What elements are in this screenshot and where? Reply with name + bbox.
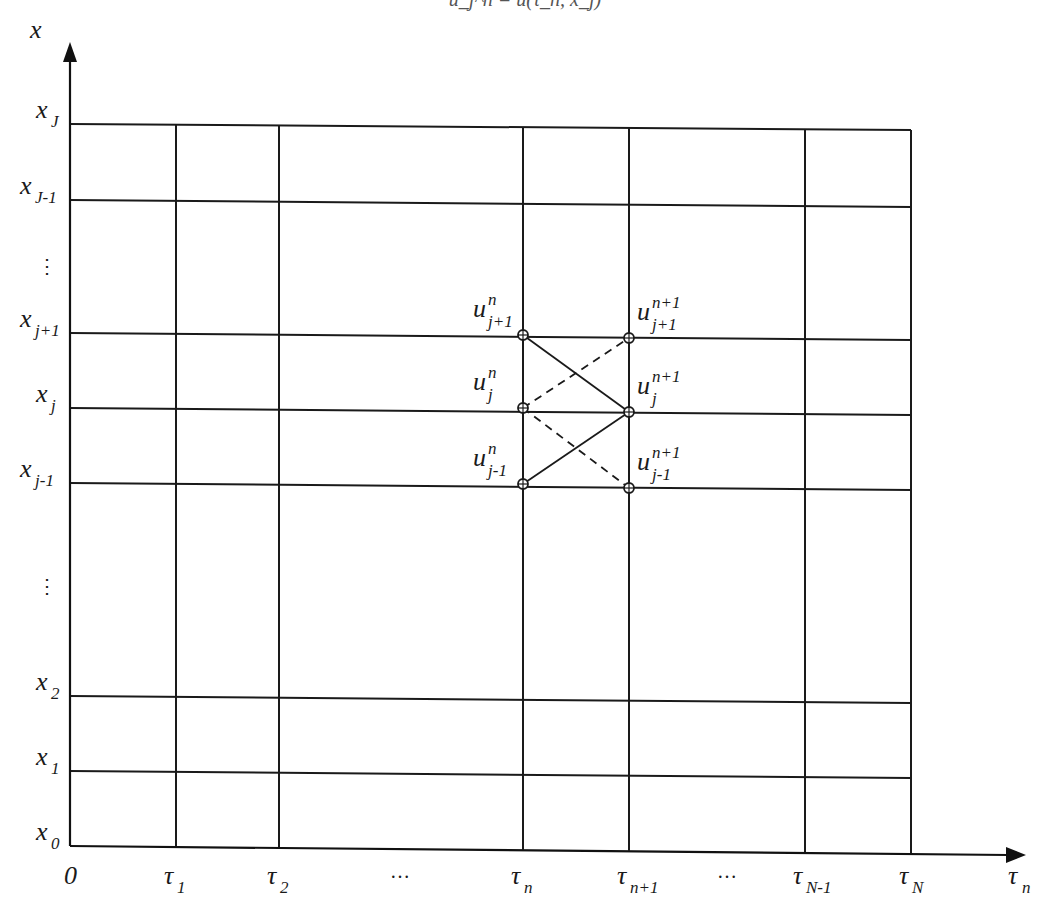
svg-text:n: n bbox=[488, 363, 497, 382]
svg-text:1: 1 bbox=[51, 759, 60, 778]
svg-text:τ: τ bbox=[511, 861, 522, 890]
svg-text:τ: τ bbox=[164, 861, 175, 890]
svg-text:J: J bbox=[51, 112, 60, 131]
y-tick-0: x0 bbox=[35, 817, 60, 853]
stencil-nodes: unj+1unjunj-1un+1j+1un+1jun+1j-1 bbox=[473, 290, 680, 493]
svg-text:…: … bbox=[717, 860, 737, 882]
svg-text:2: 2 bbox=[51, 684, 60, 703]
grid-row-x-j+1 bbox=[70, 333, 911, 340]
stencil-node-u-n+1-j+1: un+1j+1 bbox=[624, 293, 680, 343]
stencil-edge-dashed bbox=[523, 338, 629, 408]
svg-text:n+1: n+1 bbox=[652, 367, 680, 386]
stencil-node-u-n-j-1: unj-1 bbox=[473, 439, 528, 489]
svg-text:n+1: n+1 bbox=[652, 443, 680, 462]
svg-text:2: 2 bbox=[280, 878, 289, 897]
svg-text:j-1: j-1 bbox=[33, 471, 54, 490]
y-tick-1: x1 bbox=[35, 742, 60, 778]
x-tick-n: τn bbox=[511, 861, 533, 897]
origin-label: 0 bbox=[64, 861, 77, 890]
svg-text:j: j bbox=[650, 389, 657, 408]
y-axis-arrow-icon bbox=[63, 42, 77, 62]
svg-text:j-1: j-1 bbox=[486, 461, 507, 480]
grid-row-x-1 bbox=[70, 771, 911, 778]
stencil-node-u-n-j: unj bbox=[473, 363, 528, 413]
y-tick-ellipsis: ⋮ bbox=[37, 575, 57, 597]
svg-text:0: 0 bbox=[51, 834, 60, 853]
svg-text:τ: τ bbox=[267, 861, 278, 890]
y-tick-ellipsis: ⋮ bbox=[37, 255, 57, 277]
svg-text:n+1: n+1 bbox=[652, 293, 680, 312]
y-tick-J: xJ bbox=[35, 95, 60, 131]
grid-lines bbox=[70, 124, 911, 853]
x-tick-ellipsis: … bbox=[390, 860, 410, 882]
svg-text:1: 1 bbox=[177, 878, 186, 897]
svg-text:u: u bbox=[473, 294, 486, 323]
svg-text:u: u bbox=[473, 443, 486, 472]
svg-text:j-1: j-1 bbox=[650, 465, 671, 484]
x-axis-label: τ n bbox=[1008, 861, 1031, 897]
grid-row-x-J-1 bbox=[70, 200, 911, 207]
svg-text:x: x bbox=[19, 171, 32, 200]
x-tick-2: τ2 bbox=[267, 861, 289, 897]
grid-row-x-2 bbox=[70, 696, 911, 703]
grid-row-x-j-1 bbox=[70, 483, 911, 490]
svg-text:x: x bbox=[35, 667, 48, 696]
stencil-edge-solid bbox=[523, 412, 629, 484]
x-tick-n+1: τn+1 bbox=[617, 861, 658, 897]
svg-text:N: N bbox=[911, 878, 925, 897]
y-tick-j-1: xj-1 bbox=[19, 454, 54, 490]
grid-row-x-J bbox=[70, 124, 911, 130]
svg-text:x: x bbox=[35, 95, 48, 124]
y-tick-j: xj bbox=[35, 379, 56, 415]
svg-text:τ: τ bbox=[617, 861, 628, 890]
svg-text:τ: τ bbox=[1008, 861, 1019, 890]
y-tick-2: x2 bbox=[35, 667, 60, 703]
x-tick-labels: τ1τ2…τnτn+1…τN-1τN bbox=[164, 860, 925, 897]
svg-text:n: n bbox=[1022, 878, 1031, 897]
x-axis-line bbox=[70, 846, 1008, 855]
svg-text:n+1: n+1 bbox=[630, 878, 658, 897]
stencil-node-u-n-j+1: unj+1 bbox=[473, 290, 528, 340]
svg-text:x: x bbox=[35, 379, 48, 408]
svg-text:x: x bbox=[19, 454, 32, 483]
svg-text:u: u bbox=[637, 447, 650, 476]
svg-text:x: x bbox=[35, 742, 48, 771]
svg-text:⋮: ⋮ bbox=[37, 575, 57, 597]
stencil-node-u-n+1-j-1: un+1j-1 bbox=[624, 443, 680, 493]
svg-text:u: u bbox=[637, 297, 650, 326]
svg-text:n: n bbox=[488, 290, 497, 309]
svg-text:j+1: j+1 bbox=[486, 312, 513, 331]
svg-text:n: n bbox=[524, 878, 533, 897]
svg-text:N-1: N-1 bbox=[805, 878, 832, 897]
svg-text:u: u bbox=[637, 371, 650, 400]
svg-text:j: j bbox=[49, 396, 56, 415]
svg-text:u: u bbox=[473, 367, 486, 396]
y-axis-label: x bbox=[29, 15, 42, 44]
svg-text:x: x bbox=[19, 304, 32, 333]
svg-text:x: x bbox=[35, 817, 48, 846]
svg-text:τ: τ bbox=[793, 861, 804, 890]
grid-svg: u_j^n = u(τ_n, x_j) x 0 τ n τ1τ2…τnτn+1…… bbox=[0, 0, 1050, 920]
grid-row-x-j bbox=[70, 408, 911, 415]
stencil-node-u-n+1-j: un+1j bbox=[624, 367, 680, 417]
svg-text:j+1: j+1 bbox=[650, 315, 677, 334]
y-tick-J-1: xJ-1 bbox=[19, 171, 57, 207]
x-tick-N-1: τN-1 bbox=[793, 861, 832, 897]
svg-text:j: j bbox=[486, 385, 493, 404]
svg-text:τ: τ bbox=[899, 861, 910, 890]
svg-text:j+1: j+1 bbox=[33, 321, 60, 340]
x-tick-1: τ1 bbox=[164, 861, 186, 897]
top-caption-cropped: u_j^n = u(τ_n, x_j) bbox=[449, 0, 602, 11]
svg-text:…: … bbox=[390, 860, 410, 882]
svg-text:⋮: ⋮ bbox=[37, 255, 57, 277]
x-tick-ellipsis: … bbox=[717, 860, 737, 882]
y-tick-labels: xJxJ-1⋮xj+1xjxj-1⋮x2x1x0 bbox=[19, 95, 60, 853]
y-tick-j+1: xj+1 bbox=[19, 304, 60, 340]
svg-text:J-1: J-1 bbox=[35, 188, 57, 207]
x-tick-N: τN bbox=[899, 861, 925, 897]
finite-difference-grid-diagram: u_j^n = u(τ_n, x_j) x 0 τ n τ1τ2…τnτn+1…… bbox=[0, 0, 1050, 920]
svg-text:n: n bbox=[488, 439, 497, 458]
axes: x 0 τ n bbox=[29, 15, 1031, 897]
